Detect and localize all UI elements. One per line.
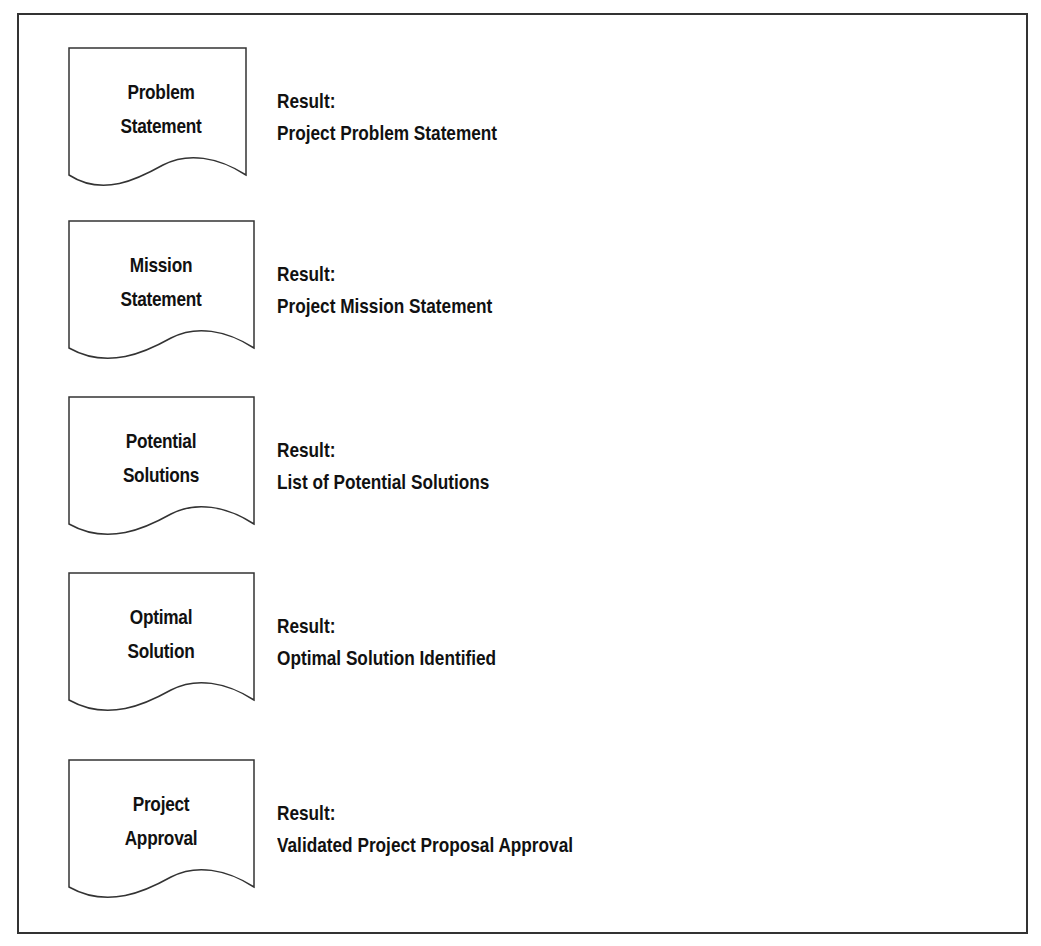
document-label: Problem Statement: [85, 75, 238, 143]
result-text: Result: List of Potential Solutions: [277, 434, 489, 498]
step-problem-statement: Problem Statement Result: Project Proble…: [0, 47, 1041, 197]
document-label-line2: Solution: [85, 634, 238, 668]
document-label-line1: Optimal: [85, 600, 238, 634]
document-label: Project Approval: [85, 787, 238, 855]
document-shape: Mission Statement: [68, 220, 258, 370]
result-text: Result: Project Problem Statement: [277, 85, 497, 149]
step-mission-statement: Mission Statement Result: Project Missio…: [0, 220, 1041, 370]
result-text: Result: Validated Project Proposal Appro…: [277, 797, 573, 861]
result-label: Result:: [277, 258, 492, 290]
document-label: Potential Solutions: [85, 424, 238, 492]
document-label-line2: Approval: [85, 821, 238, 855]
result-value: Project Mission Statement: [277, 290, 492, 322]
document-shape: Project Approval: [68, 759, 258, 909]
result-label: Result:: [277, 610, 496, 642]
document-label-line2: Solutions: [85, 458, 238, 492]
document-label-line1: Project: [85, 787, 238, 821]
result-value: Optimal Solution Identified: [277, 642, 496, 674]
document-label-line1: Problem: [85, 75, 238, 109]
step-project-approval: Project Approval Result: Validated Proje…: [0, 759, 1041, 909]
result-text: Result: Project Mission Statement: [277, 258, 492, 322]
result-text: Result: Optimal Solution Identified: [277, 610, 496, 674]
document-shape: Problem Statement: [68, 47, 258, 197]
document-label-line2: Statement: [85, 109, 238, 143]
document-label: Mission Statement: [85, 248, 238, 316]
step-optimal-solution: Optimal Solution Result: Optimal Solutio…: [0, 572, 1041, 722]
document-label: Optimal Solution: [85, 600, 238, 668]
result-value: List of Potential Solutions: [277, 466, 489, 498]
result-label: Result:: [277, 797, 573, 829]
step-potential-solutions: Potential Solutions Result: List of Pote…: [0, 396, 1041, 546]
document-shape: Potential Solutions: [68, 396, 258, 546]
document-shape: Optimal Solution: [68, 572, 258, 722]
result-value: Validated Project Proposal Approval: [277, 829, 573, 861]
document-label-line1: Potential: [85, 424, 238, 458]
result-label: Result:: [277, 85, 497, 117]
result-label: Result:: [277, 434, 489, 466]
document-label-line1: Mission: [85, 248, 238, 282]
result-value: Project Problem Statement: [277, 117, 497, 149]
document-label-line2: Statement: [85, 282, 238, 316]
